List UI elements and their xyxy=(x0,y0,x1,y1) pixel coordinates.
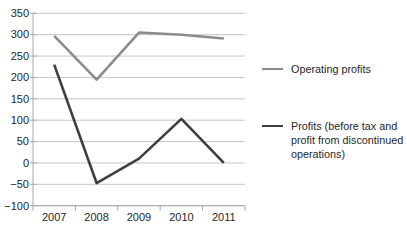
line-chart: 350300250200150100500−50−100200720082009… xyxy=(0,0,260,231)
legend-item-operating-profits: Operating profits xyxy=(262,62,407,76)
y-tick-label: −50 xyxy=(10,178,29,190)
legend-item-profits-before-tax: Profits (before tax and profit from disc… xyxy=(262,119,407,162)
x-tick-label: 2011 xyxy=(212,211,236,223)
series-line-1 xyxy=(54,65,224,183)
x-tick-label: 2007 xyxy=(42,211,66,223)
y-tick-label: 300 xyxy=(11,28,29,40)
x-tick-label: 2010 xyxy=(169,211,193,223)
y-tick-label: 0 xyxy=(23,157,29,169)
y-tick-label: 50 xyxy=(17,135,29,147)
y-tick-label: 350 xyxy=(11,7,29,19)
y-tick-label: 250 xyxy=(11,50,29,62)
x-tick-label: 2009 xyxy=(127,211,151,223)
y-tick-label: 150 xyxy=(11,93,29,105)
y-tick-label: −100 xyxy=(4,200,29,212)
legend-label-operating-profits: Operating profits xyxy=(291,62,407,76)
legend-label-profits-before-tax: Profits (before tax and profit from disc… xyxy=(291,119,407,162)
legend: Operating profits Profits (before tax an… xyxy=(262,0,407,231)
chart-panel: 350300250200150100500−50−100200720082009… xyxy=(0,0,407,231)
y-tick-label: 200 xyxy=(11,71,29,83)
legend-swatch-operating-profits xyxy=(262,68,283,70)
legend-swatch-profits-before-tax xyxy=(262,125,283,127)
x-tick-label: 2008 xyxy=(84,211,108,223)
y-tick-label: 100 xyxy=(11,114,29,126)
